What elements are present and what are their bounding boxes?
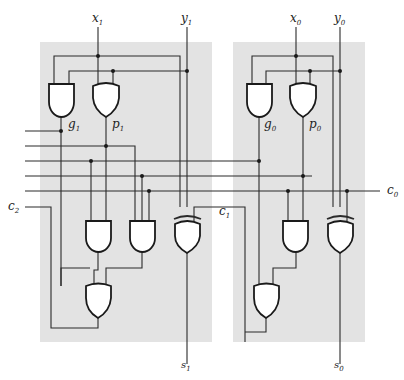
and-gate-2 [130,221,155,252]
label-c1: c1 [219,204,230,220]
circuit-diagram: x1 y1 g1 p1 s1 x0 y0 g0 p0 s0 c0 c1 c2 [0,0,404,380]
label-y1: y1 [180,11,192,27]
and-gate-0 [283,221,308,252]
and-gate-g1 [49,84,74,117]
label-x0: x0 [290,11,302,27]
label-s0: s0 [334,359,344,373]
and-gate-g0 [247,84,272,117]
and-gate-1 [86,221,111,252]
label-x1: x1 [92,11,103,27]
label-c2: c2 [8,199,20,215]
label-s1: s1 [181,359,191,373]
label-y0: y0 [333,11,346,27]
label-c0: c0 [387,183,399,199]
